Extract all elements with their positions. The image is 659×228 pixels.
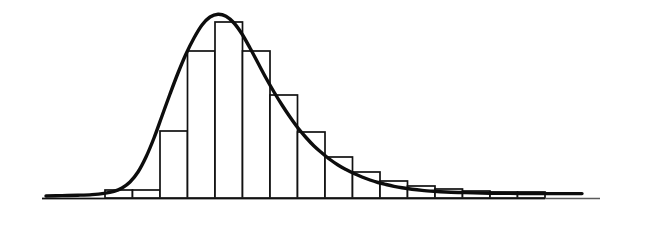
histogram-bar xyxy=(160,131,188,198)
histogram-plot xyxy=(0,0,659,228)
histogram-bar xyxy=(215,22,243,198)
histogram-bar xyxy=(188,51,216,198)
bars-group xyxy=(105,22,545,198)
histogram-bar xyxy=(243,51,271,198)
histogram-figure xyxy=(0,0,659,228)
histogram-bar xyxy=(325,157,353,198)
histogram-bar xyxy=(133,190,161,198)
